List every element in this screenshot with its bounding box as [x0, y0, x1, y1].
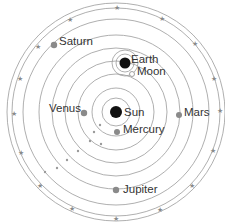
orbit-marker-dot: [44, 171, 46, 173]
sun-icon: [110, 106, 122, 118]
star-icon: ★: [211, 75, 217, 82]
star-icon: ★: [159, 15, 165, 22]
solar-system-diagram: ★★★★★★★★★★★★★★★★ EarthMoonSunMercuryVenu…: [0, 0, 225, 222]
mars-label: Mars: [184, 106, 210, 118]
star-icon: ★: [35, 43, 41, 50]
star-icon: ★: [114, 4, 120, 11]
sun-label: Sun: [124, 106, 144, 118]
body-labels: EarthMoonSunMercuryVenusMarsJupiterSatur…: [49, 35, 210, 195]
moon-icon: [130, 72, 135, 77]
jupiter-icon: [113, 187, 119, 193]
star-icon: ★: [69, 205, 75, 212]
venus-label: Venus: [49, 102, 81, 114]
star-icon: ★: [189, 182, 195, 189]
star-icon: ★: [17, 75, 23, 82]
jupiter-label: Jupiter: [123, 183, 158, 195]
orbit-marker-dot: [56, 167, 58, 169]
star-icon: ★: [157, 206, 163, 213]
orbit-marker-dot: [93, 131, 95, 133]
mars-icon: [176, 112, 182, 118]
venus-icon: [81, 110, 87, 116]
saturn-icon: [51, 42, 57, 48]
mercury-label: Mercury: [123, 123, 165, 135]
orbit-marker-dot: [89, 140, 91, 142]
star-icon: ★: [67, 16, 73, 23]
orbit-marker-dot: [99, 124, 101, 126]
orbit-marker-dots: [44, 124, 102, 173]
star-icon: ★: [210, 147, 216, 154]
star-icon: ★: [18, 149, 24, 156]
mercury-icon: [114, 129, 120, 135]
moon-label: Moon: [137, 65, 166, 77]
star-icon: ★: [113, 215, 119, 222]
saturn-label: Saturn: [59, 35, 93, 47]
star-icon: ★: [11, 110, 17, 117]
star-icon: ★: [192, 40, 198, 47]
orbit-marker-dot: [77, 150, 79, 152]
star-icon: ★: [37, 182, 43, 189]
star-icon: ★: [217, 107, 223, 114]
orbit-marker-dot: [100, 143, 102, 145]
earth-label: Earth: [131, 53, 159, 65]
orbit-marker-dot: [66, 159, 68, 161]
earth-icon: [120, 58, 131, 69]
